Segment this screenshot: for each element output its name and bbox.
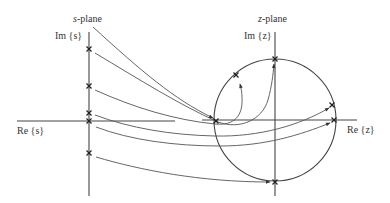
curve-pole4-to-z-one bbox=[96, 123, 330, 146]
mapping-curves bbox=[93, 27, 330, 182]
curve-title-to-z-left bbox=[93, 27, 213, 118]
z-plane-axes bbox=[202, 32, 357, 196]
curve-pole2-to-z-upperleft bbox=[95, 84, 242, 124]
z-plane-title: z-plane bbox=[258, 14, 287, 24]
z-imag-label: Im {z} bbox=[244, 31, 272, 41]
s-plane-title: s-plane bbox=[73, 14, 102, 24]
curve-pole3-to-z-upperright bbox=[95, 108, 329, 136]
s-imag-label: Im {s} bbox=[55, 31, 82, 41]
curve-pole1-to-z-top bbox=[95, 53, 274, 125]
curve-pole5-to-z-bottom bbox=[96, 157, 270, 182]
s-plane-axes bbox=[17, 32, 175, 196]
z-real-label: Re {z} bbox=[347, 125, 375, 135]
s-real-label: Re {s} bbox=[17, 126, 44, 136]
